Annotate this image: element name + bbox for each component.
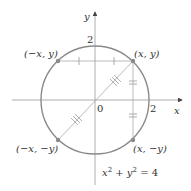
diagonal xyxy=(58,61,133,140)
x-axis-label: x xyxy=(174,105,180,116)
point-label-q3: (−x, −y) xyxy=(16,143,58,154)
point-label-q4: (x, −y) xyxy=(133,143,167,154)
point-label-q1: (x, y) xyxy=(134,48,160,59)
y-tick-label: 2 xyxy=(87,34,93,45)
y-axis-label: y xyxy=(83,11,90,22)
x-tick-label: 2 xyxy=(150,103,156,114)
point-label-q2: (−x, y) xyxy=(24,48,58,59)
point-marker xyxy=(131,59,135,63)
point-marker xyxy=(131,138,135,142)
circle-symmetry-diagram: y x 0 2 2 (x, y) (−x, y) (−x, −y) (x, −y… xyxy=(0,0,191,191)
point-marker xyxy=(56,138,60,142)
point-marker xyxy=(56,59,60,63)
origin-label: 0 xyxy=(97,103,103,114)
equation: x2 + y2 = 4 xyxy=(102,166,158,178)
